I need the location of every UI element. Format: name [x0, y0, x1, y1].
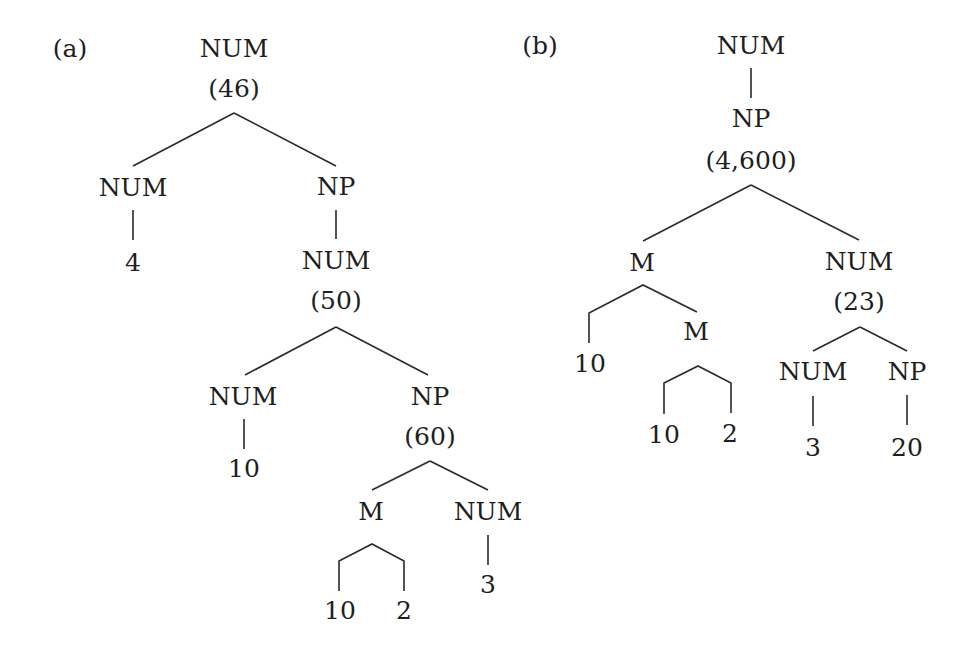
node-num: NUM	[825, 249, 894, 274]
node-num: NUM	[209, 384, 278, 409]
tree-branch	[664, 366, 731, 414]
node-np: NP	[317, 174, 356, 199]
leaf-3: 3	[480, 572, 496, 597]
leaf-3: 3	[805, 435, 821, 460]
node-m: M	[629, 250, 655, 275]
tree-branch	[234, 113, 336, 166]
tree-branch	[751, 185, 859, 240]
node-m: M	[683, 319, 709, 344]
tree-branch	[336, 327, 428, 375]
tree-branch	[860, 327, 907, 351]
tree-branch	[589, 285, 697, 343]
node-value-4600: (4,600)	[705, 148, 796, 173]
tree-branch	[813, 327, 860, 351]
node-num: NUM	[99, 175, 168, 200]
node-np: NP	[411, 384, 450, 409]
panel-b-label: (b)	[522, 33, 558, 58]
node-num: NUM	[454, 499, 523, 524]
leaf-10: 10	[228, 456, 260, 481]
tree-branch	[245, 327, 336, 375]
tree-branch	[430, 461, 488, 490]
tree-edges	[0, 0, 970, 667]
panel-a-label: (a)	[53, 36, 87, 61]
leaf-10: 10	[324, 598, 356, 623]
tree-branch	[643, 185, 751, 241]
node-np: NP	[888, 359, 927, 384]
leaf-10: 10	[574, 351, 606, 376]
node-np: NP	[732, 106, 771, 131]
node-num: NUM	[779, 359, 848, 384]
node-num-root: NUM	[717, 33, 786, 58]
node-value-23: (23)	[833, 289, 884, 314]
node-value-60: (60)	[404, 424, 455, 449]
leaf-4: 4	[125, 250, 141, 275]
node-num-root: NUM	[200, 36, 269, 61]
leaf-2: 2	[722, 421, 738, 446]
node-value-50: (50)	[310, 288, 361, 313]
tree-branch	[372, 461, 430, 490]
node-m: M	[358, 499, 384, 524]
leaf-10: 10	[648, 422, 680, 447]
node-num: NUM	[302, 248, 371, 273]
leaf-20: 20	[891, 435, 923, 460]
figure-canvas: (a) NUM (46) NUM 4 NP NUM (50) NUM 10 NP…	[0, 0, 970, 667]
tree-branch	[339, 544, 404, 591]
tree-branch	[133, 113, 234, 166]
node-value-46: (46)	[208, 76, 259, 101]
leaf-2: 2	[396, 598, 412, 623]
